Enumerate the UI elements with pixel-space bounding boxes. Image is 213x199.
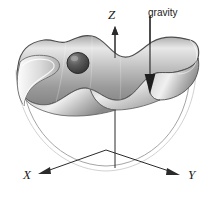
ball	[67, 53, 89, 74]
figure-canvas	[0, 0, 213, 199]
x-axis-label: X	[23, 168, 31, 181]
z-axis-label: Z	[108, 8, 115, 21]
gravity-label: gravity	[148, 8, 177, 18]
y-axis	[106, 150, 180, 175]
y-axis-label: Y	[188, 168, 195, 181]
physics-figure: Z gravity X Y	[0, 0, 213, 199]
wavy-surface	[17, 36, 199, 116]
